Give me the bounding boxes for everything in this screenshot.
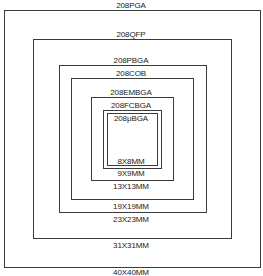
package-size-diagram: 208PGA 40X40MM 208QFP 31X31MM 208PBGA 23… bbox=[0, 0, 263, 276]
label-208pga-name: 208PGA bbox=[116, 1, 146, 10]
label-208ubga-size: 8X8MM bbox=[117, 157, 144, 166]
label-208pbga-name: 208PBGA bbox=[114, 56, 149, 65]
label-208ubga-name: 208μBGA bbox=[114, 114, 148, 123]
label-208embga-name: 208EMBGA bbox=[110, 88, 151, 97]
label-208embga-size: 13X13MM bbox=[113, 182, 149, 191]
label-208pga-size: 40X40MM bbox=[113, 268, 149, 276]
label-208qfp-size: 31X31MM bbox=[113, 241, 149, 250]
label-208fcbga-name: 208FCBGA bbox=[111, 101, 151, 110]
label-208qfp-name: 208QFP bbox=[116, 30, 145, 39]
label-208cob-size: 19X19MM bbox=[113, 202, 149, 211]
label-208fcbga-size: 9X9MM bbox=[117, 169, 144, 178]
label-208pbga-size: 23X23MM bbox=[113, 215, 149, 224]
label-208cob-name: 208COB bbox=[116, 69, 146, 78]
